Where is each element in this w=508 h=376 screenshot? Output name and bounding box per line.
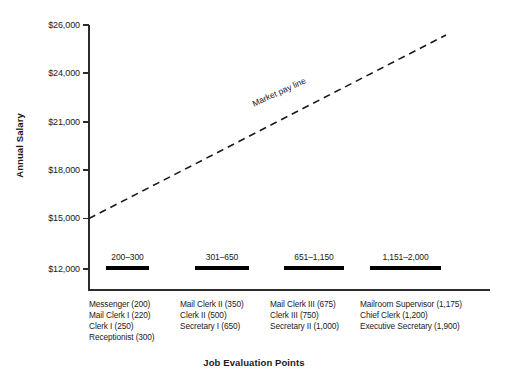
y-axis-tick — [83, 268, 89, 270]
y-axis-tick — [83, 24, 89, 26]
y-axis-tick — [83, 121, 89, 123]
y-axis-tick — [83, 72, 89, 74]
job-list-item: Secretary II (1,000) — [270, 321, 339, 332]
y-axis-line — [88, 25, 90, 290]
job-list-item: Chief Clerk (1,200) — [360, 310, 462, 321]
y-axis-tick — [83, 169, 89, 171]
job-list-item: Executive Secretary (1,900) — [360, 321, 462, 332]
job-list-item: Secretary I (650) — [180, 321, 244, 332]
grade-range-bar — [195, 266, 249, 270]
job-list-item: Receptionist (300) — [89, 332, 155, 343]
grade-range-bar — [370, 266, 441, 270]
job-list-column: Mail Clerk II (350)Clerk II (500)Secreta… — [180, 299, 244, 332]
grade-range-bar — [284, 266, 344, 270]
y-axis-tick-label-text: $21,000 — [18, 118, 80, 127]
x-axis-title: Job Evaluation Points — [0, 357, 508, 368]
job-list-item: Clerk II (500) — [180, 310, 244, 321]
job-list-item: Mail Clerk II (350) — [180, 299, 244, 310]
job-list-item: Mail Clerk III (675) — [270, 299, 339, 310]
job-list-item: Clerk III (750) — [270, 310, 339, 321]
y-axis-title: Annual Salary — [14, 91, 25, 201]
job-list-item: Clerk I (250) — [89, 321, 155, 332]
y-axis-tick-label: $18,000 — [16, 166, 80, 175]
grade-range-bar — [106, 266, 149, 270]
y-axis-tick-label: $24,000 — [16, 69, 80, 78]
x-axis-line — [88, 289, 490, 291]
y-axis-tick-label-text: $15,000 — [18, 214, 80, 223]
job-list-column: Mailroom Supervisor (1,175)Chief Clerk (… — [360, 299, 462, 332]
y-axis-tick-label: $26,000 — [16, 21, 80, 30]
market-pay-line-label: Market pay line — [251, 75, 308, 108]
y-axis-tick-label: $21,000 — [16, 118, 80, 127]
y-axis-tick-label: $12,000 — [16, 265, 80, 274]
grade-range-label: 1,151–2,000 — [370, 252, 441, 262]
job-list-item: Mail Clerk I (220) — [89, 310, 155, 321]
grade-range-label: 301–650 — [195, 252, 249, 262]
grade-range-label: 651–1,150 — [284, 252, 344, 262]
y-axis-tick-label-text: $18,000 — [18, 166, 80, 175]
job-list-item: Mailroom Supervisor (1,175) — [360, 299, 462, 310]
y-axis-tick-label-text: $26,000 — [18, 21, 80, 30]
y-axis-tick — [83, 218, 89, 220]
job-list-column: Messenger (200)Mail Clerk I (220)Clerk I… — [89, 299, 155, 343]
grade-range-label: 200–300 — [106, 252, 149, 262]
y-axis-tick-label-text: $24,000 — [18, 69, 80, 78]
y-axis-tick-label: $15,000 — [16, 214, 80, 223]
y-axis-tick-label-text: $12,000 — [18, 265, 80, 274]
job-list-column: Mail Clerk III (675)Clerk III (750)Secre… — [270, 299, 339, 332]
job-list-item: Messenger (200) — [89, 299, 155, 310]
compensation-chart: $26,000$24,000$21,000$18,000$15,000$12,0… — [0, 0, 508, 376]
